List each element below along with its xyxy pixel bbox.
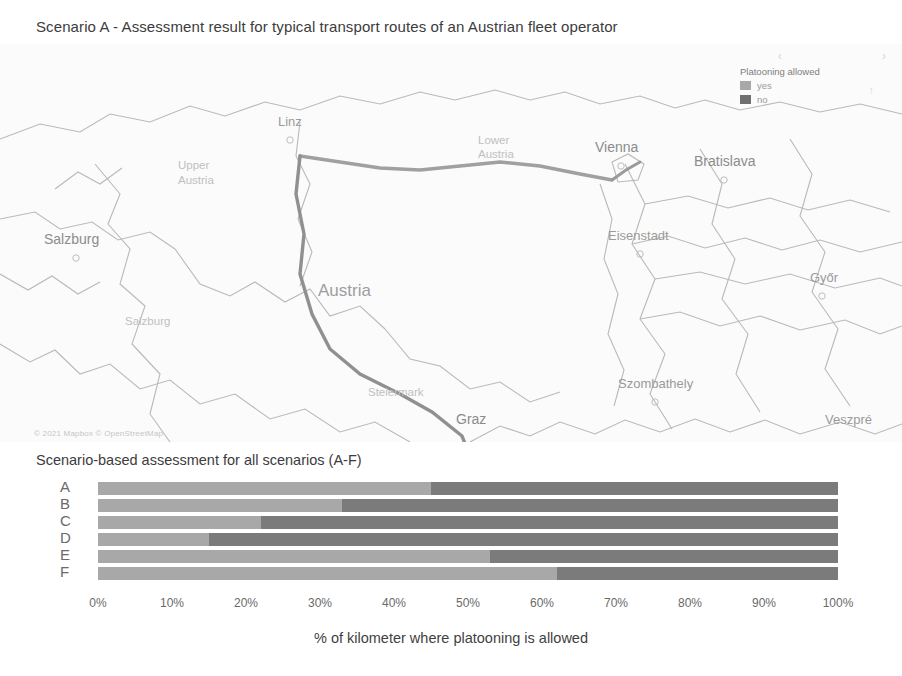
map-panel[interactable]: Austria Upper Austria Lower Austria Salz… (0, 44, 902, 442)
map-region-label: Salzburg (125, 315, 170, 327)
map-city-label-veszpre: Veszpré (825, 412, 872, 427)
bar-segment-no (431, 482, 838, 495)
category-label-e: E (60, 546, 86, 563)
map-city-label-salzburg: Salzburg (44, 231, 99, 247)
bar-segment-yes (98, 533, 209, 546)
map-city-label-gyor: Győr (810, 270, 839, 285)
bar-segment-yes (98, 550, 490, 563)
x-tick-label: 30% (308, 596, 332, 610)
legend-swatch-yes (740, 81, 751, 90)
x-tick-label: 70% (604, 596, 628, 610)
x-tick-label: 100% (823, 596, 854, 610)
x-tick-label: 60% (530, 596, 554, 610)
bar-segment-no (261, 516, 838, 529)
bar-row[interactable] (98, 516, 838, 529)
x-tick-label: 50% (456, 596, 480, 610)
category-label-d: D (60, 529, 86, 546)
map-country-label: Austria (318, 281, 371, 300)
x-tick-label: 40% (382, 596, 406, 610)
bar-segment-yes (98, 567, 557, 580)
bar-segment-no (342, 499, 838, 512)
map-region-label: Lower (478, 134, 509, 146)
x-tick-label: 0% (89, 596, 106, 610)
legend-swatch-no (740, 95, 751, 104)
map-region-label: Austria (178, 174, 214, 186)
map-region-label: Steiermark (368, 386, 424, 398)
map-attribution[interactable]: © 2021 Mapbox © OpenStreetMap (34, 429, 163, 438)
map-city-label-eisenstadt: Eisenstadt (608, 228, 669, 243)
map-city-label-bratislava: Bratislava (694, 153, 756, 169)
legend-item-yes[interactable]: yes (740, 80, 890, 91)
legend-item-no[interactable]: no (740, 94, 890, 105)
compass-north-icon: ↑ (869, 84, 875, 96)
x-tick-label: 10% (160, 596, 184, 610)
bar-row[interactable] (98, 533, 838, 546)
bar-segment-no (557, 567, 838, 580)
category-label-a: A (60, 478, 86, 495)
chart-title: Scenario-based assessment for all scenar… (36, 452, 362, 468)
map-city-label-linz: Linz (278, 114, 302, 129)
x-axis: 0%10%20%30%40%50%60%70%80%90%100% (0, 596, 902, 614)
legend-title: Platooning allowed (740, 66, 890, 77)
bar-row[interactable] (98, 499, 838, 512)
bar-segment-yes (98, 516, 261, 529)
bar-segment-no (209, 533, 838, 546)
bar-segment-yes (98, 499, 342, 512)
chevron-left-icon[interactable]: ‹ (778, 48, 782, 63)
x-axis-title: % of kilometer where platooning is allow… (0, 630, 902, 646)
page-title: Scenario A - Assessment result for typic… (36, 18, 618, 35)
map-region-label: Upper (178, 159, 209, 171)
bar-segment-no (490, 550, 838, 563)
category-label-f: F (60, 563, 86, 580)
map-city-label-vienna: Vienna (595, 139, 639, 155)
chevron-right-icon[interactable]: › (882, 48, 886, 63)
bar-row[interactable] (98, 482, 838, 495)
x-tick-label: 80% (678, 596, 702, 610)
bar-row[interactable] (98, 550, 838, 563)
x-tick-label: 20% (234, 596, 258, 610)
map-city-label-graz: Graz (456, 411, 486, 427)
map-legend: Platooning allowed yes no (740, 66, 890, 108)
bar-row[interactable] (98, 567, 838, 580)
category-label-c: C (60, 512, 86, 529)
map-city-label-szombathely: Szombathely (618, 376, 694, 391)
x-tick-label: 90% (752, 596, 776, 610)
legend-label-no: no (757, 94, 768, 105)
legend-label-yes: yes (757, 80, 772, 91)
map-region-label: Austria (478, 148, 514, 160)
category-label-b: B (60, 495, 86, 512)
bar-segment-yes (98, 482, 431, 495)
